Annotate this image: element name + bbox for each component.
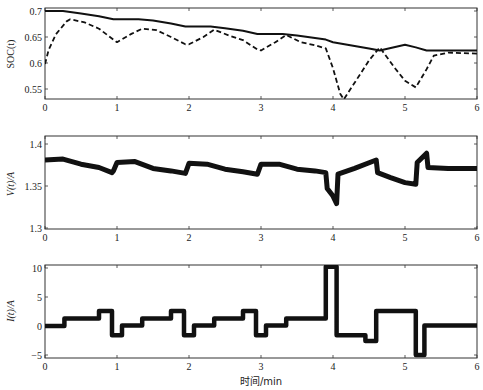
x-tick-label: 4	[331, 361, 336, 372]
x-tick-label: 6	[475, 361, 480, 372]
x-tick-label: 3	[259, 102, 264, 113]
x-tick-label: 4	[331, 232, 336, 243]
soc-panel: 01234560.550.60.650.7	[25, 6, 480, 114]
current-panel: 0123456−50510	[31, 263, 479, 373]
x-tick-label: 1	[115, 232, 120, 243]
y-tick-label: 0.6	[30, 58, 43, 69]
voltage-y-axis-label: V(t)/A	[5, 171, 17, 196]
x-tick-label: 0	[43, 232, 48, 243]
y-tick-label: 1.35	[25, 181, 43, 192]
soc-y-axis-label: SOC(t)	[5, 40, 17, 69]
y-tick-label: 1.4	[30, 139, 43, 150]
x-tick-label: 6	[475, 102, 480, 113]
x-tick-label: 5	[403, 102, 408, 113]
y-tick-label: 10	[32, 263, 42, 274]
y-tick-label: 0.65	[25, 32, 43, 43]
x-tick-label: 5	[403, 232, 408, 243]
figure: 01234560.550.60.650.7 01234561.31.351.4 …	[0, 0, 483, 390]
x-tick-label: 2	[187, 102, 192, 113]
x-tick-label: 3	[259, 232, 264, 243]
y-tick-label: 0.7	[30, 6, 43, 17]
x-tick-label: 0	[43, 361, 48, 372]
x-tick-label: 4	[331, 102, 336, 113]
voltage-panel: 01234561.31.351.4	[25, 136, 480, 243]
current-y-axis-label: I(t)/A	[5, 299, 17, 323]
x-tick-label: 2	[187, 232, 192, 243]
x-tick-label: 6	[475, 232, 480, 243]
y-tick-label: −5	[31, 350, 42, 361]
series-line	[45, 153, 477, 203]
y-tick-label: 1.3	[30, 223, 43, 234]
x-tick-label: 1	[115, 361, 120, 372]
y-tick-label: 5	[37, 292, 42, 303]
x-tick-label: 3	[259, 361, 264, 372]
x-tick-label: 2	[187, 361, 192, 372]
x-axis-label: 时间/min	[240, 375, 282, 387]
y-tick-label: 0.55	[25, 84, 43, 95]
x-tick-label: 5	[403, 361, 408, 372]
series-line	[45, 19, 477, 99]
y-tick-label: 0	[37, 321, 42, 332]
series-line	[45, 267, 477, 355]
x-tick-label: 0	[43, 102, 48, 113]
x-tick-label: 1	[115, 102, 120, 113]
series-line	[45, 11, 477, 51]
